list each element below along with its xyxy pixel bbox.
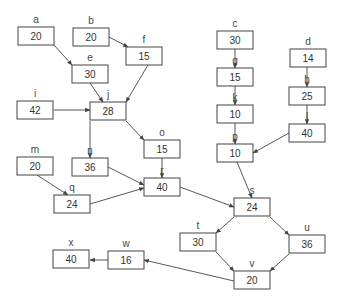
node-label: l [306,111,308,122]
node-s: 24s [234,185,270,216]
node-w: 16w [108,238,144,269]
edge-a-e [54,45,72,65]
node-l: 40l [289,111,325,142]
edge-t-v [216,252,234,271]
node-u: 36u [289,222,325,253]
node-label: a [33,14,39,25]
node-value: 15 [229,72,241,83]
edge-r-s [180,187,234,207]
node-r: 40r [144,165,180,196]
node-label: v [250,258,255,269]
edge-s-u [270,217,289,235]
node-label: o [159,127,165,138]
node-value: 36 [84,162,96,173]
node-label: j [106,89,109,100]
node-h: 25h [289,74,325,105]
node-value: 40 [65,254,77,265]
node-value: 16 [120,255,132,266]
node-label: t [197,220,200,231]
node-label: s [250,185,255,196]
node-value: 40 [156,182,168,193]
node-x: 40x [53,237,89,268]
node-value: 24 [66,199,78,210]
node-label: u [304,222,310,233]
node-a: 20a [18,14,54,45]
node-label: k [233,92,239,103]
node-label: h [304,74,310,85]
node-label: g [232,55,238,66]
node-c: 30c [217,18,253,49]
node-label: f [143,34,146,45]
node-value: 30 [84,69,96,80]
node-o: 15o [144,127,180,158]
node-value: 20 [29,161,41,172]
node-value: 36 [301,239,313,250]
edge-j-o [126,121,144,140]
node-f: 15f [126,34,162,65]
edge-b-f [109,37,128,47]
node-value: 20 [30,31,42,42]
edge-l-p [253,133,289,153]
node-label: n [87,145,93,156]
node-label: m [31,144,39,155]
node-label: w [121,238,130,249]
node-j: 28j [90,89,126,120]
node-value: 30 [192,237,204,248]
node-n: 36n [72,145,108,176]
edge-f-j [126,65,148,102]
node-label: x [69,237,74,248]
node-q: 24q [54,182,90,213]
node-m: 20m [17,144,53,175]
node-value: 20 [246,275,258,286]
edge-e-j [90,83,103,102]
node-i: 42i [17,88,53,119]
node-value: 42 [29,105,41,116]
node-value: 10 [229,109,241,120]
node-label: d [305,36,311,47]
edge-m-q [37,175,68,195]
node-e: 30e [72,52,108,83]
node-label: p [232,131,238,142]
edge-u-v [270,254,289,271]
node-value: 25 [301,91,313,102]
node-label: i [34,88,36,99]
node-value: 28 [102,106,114,117]
node-label: b [88,15,94,26]
node-k: 10k [217,92,253,123]
node-value: 40 [301,128,313,139]
node-label: q [69,182,75,193]
network-diagram: 20a20b30e15f42i28j20m36n15o24q40r30c15g1… [0,0,341,303]
edge-s-t [216,217,234,233]
node-g: 15g [217,55,253,86]
node-value: 15 [156,144,168,155]
node-value: 15 [138,51,150,62]
node-value: 24 [246,202,258,213]
node-label: r [160,165,164,176]
node-label: e [87,52,93,63]
edge-n-r [108,167,144,185]
node-d: 14d [290,36,326,67]
node-b: 20b [73,15,109,46]
node-t: 30t [180,220,216,251]
node-value: 10 [229,148,241,159]
node-label: c [233,18,238,29]
edge-q-r [90,188,144,204]
node-v: 20v [234,258,270,289]
node-value: 20 [85,32,97,43]
node-p: 10p [217,131,253,162]
node-value: 14 [302,53,314,64]
node-value: 30 [229,35,241,46]
edge-v-w [144,260,234,281]
